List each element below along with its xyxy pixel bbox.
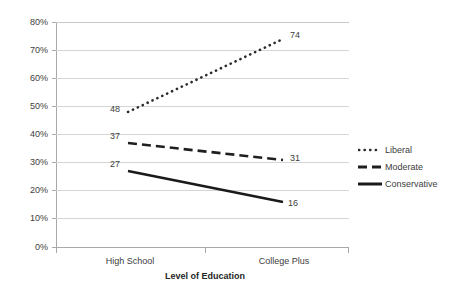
- gridline-80: [56, 22, 349, 23]
- x-axis-tick-mark: [348, 248, 349, 253]
- data-label-moderate-high-school: 37: [110, 132, 120, 141]
- legend-label-liberal: Liberal: [385, 145, 412, 155]
- legend-item-conservative[interactable]: Conservative: [358, 175, 448, 192]
- y-axis-tick-label-10: 10%: [0, 214, 48, 223]
- legend-key-dotted-icon: [358, 145, 382, 155]
- y-axis-tick-label-0: 0%: [0, 243, 48, 252]
- gridline-70: [56, 50, 349, 51]
- data-label-conservative-high-school: 27: [110, 160, 120, 169]
- x-axis-line: [56, 247, 349, 248]
- y-axis-tick-label-50: 50%: [0, 102, 48, 111]
- y-axis-tick-label-30: 30%: [0, 158, 48, 167]
- line-chart: 80% 70% 60% 50% 40% 30% 20% 10% 0%: [0, 0, 449, 295]
- data-label-liberal-high-school: 48: [110, 105, 120, 114]
- legend-label-moderate: Moderate: [385, 162, 423, 172]
- y-axis-tick-label-70: 70%: [0, 46, 48, 55]
- data-label-liberal-college-plus: 74: [290, 31, 300, 40]
- data-label-conservative-college-plus: 16: [288, 199, 298, 208]
- gridline-20: [56, 190, 349, 191]
- x-axis-tick-mark: [205, 248, 206, 253]
- legend-item-liberal[interactable]: Liberal: [358, 141, 448, 158]
- x-axis-category-high-school: High School: [106, 256, 155, 266]
- gridline-40: [56, 134, 349, 135]
- legend-key-dashed-icon: [358, 162, 382, 172]
- legend-key-solid-icon: [358, 179, 382, 189]
- data-label-moderate-college-plus: 31: [290, 154, 300, 163]
- legend: Liberal Moderate Conservative: [358, 141, 448, 192]
- gridline-30: [56, 162, 349, 163]
- gridline-50: [56, 106, 349, 107]
- y-axis-tick-label-60: 60%: [0, 74, 48, 83]
- x-axis-title: Level of Education: [0, 271, 410, 281]
- y-axis-tick-label-80: 80%: [0, 18, 48, 27]
- x-axis-tick-mark: [56, 248, 57, 253]
- plot-area: [56, 22, 349, 247]
- gridline-60: [56, 78, 349, 79]
- gridline-10: [56, 218, 349, 219]
- legend-item-moderate[interactable]: Moderate: [358, 158, 448, 175]
- y-axis-tick-label-40: 40%: [0, 130, 48, 139]
- legend-label-conservative: Conservative: [385, 179, 438, 189]
- y-axis-tick-label-20: 20%: [0, 186, 48, 195]
- x-axis-category-college-plus: College Plus: [259, 256, 310, 266]
